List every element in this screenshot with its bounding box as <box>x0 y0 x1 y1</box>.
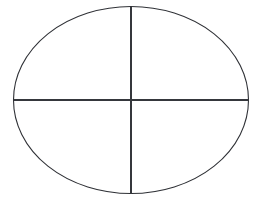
ellipse-diagram-svg <box>0 0 254 204</box>
canvas-background <box>0 0 254 204</box>
figure-canvas <box>0 0 254 204</box>
